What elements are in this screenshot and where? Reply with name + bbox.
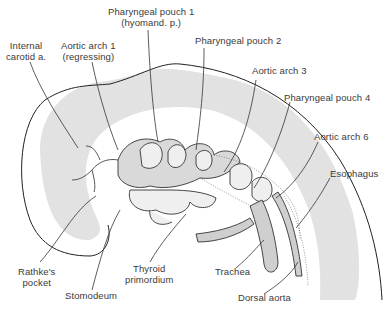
label-pharyngeal-pouch-2: Pharyngeal pouch 2 [195,35,281,46]
label-thyroid-primordium: Thyroid primordium [125,263,174,285]
label-aortic-arch-3: Aortic arch 3 [252,65,307,76]
label-aortic-arch-6: Aortic arch 6 [314,131,369,142]
body-shading [40,69,359,300]
label-dorsal-aorta: Dorsal aorta [238,292,291,303]
label-aortic-arch-1: Aortic arch 1 (regressing) [61,40,116,62]
label-rathkes-pocket: Rathke's pocket [18,266,55,288]
label-internal-carotid: Internal carotid a. [6,40,46,62]
label-pharyngeal-pouch-1: Pharyngeal pouch 1 (hyomand. p.) [108,6,194,28]
label-esophagus: Esophagus [330,168,378,179]
embryo-pharynx-diagram [0,0,386,311]
pharyngeal-arches [118,139,300,240]
label-stomodeum: Stomodeum [65,290,117,301]
label-pharyngeal-pouch-4: Pharyngeal pouch 4 [284,92,370,103]
label-trachea: Trachea [215,266,250,277]
pharynx-floor [129,190,216,224]
